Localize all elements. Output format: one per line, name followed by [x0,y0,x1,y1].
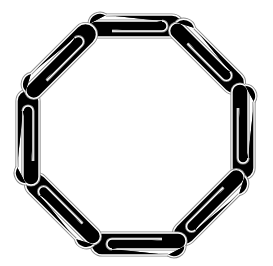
paperclip-top-left [17,18,101,102]
paperclip-ring-illustration [0,0,273,266]
paperclip-right [232,84,256,179]
paperclip-bottom [91,233,186,257]
paperclip-left [15,90,39,185]
